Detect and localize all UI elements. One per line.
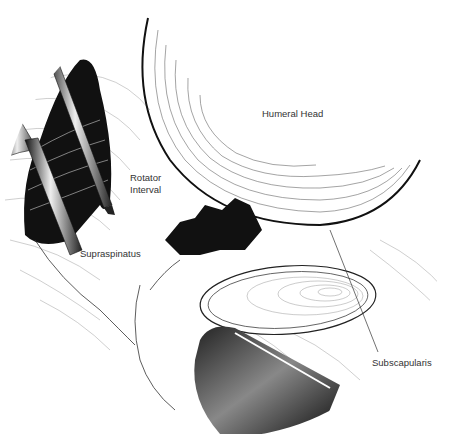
label-subscapularis: Subscapularis [372, 357, 432, 369]
label-rotator-line1: Rotator [130, 172, 161, 184]
label-rotator-line2: Interval [130, 184, 161, 196]
label-humeral-head: Humeral Head [262, 108, 323, 120]
cannula-instrument [194, 327, 340, 434]
label-rotator-interval: Rotator Interval [130, 172, 161, 196]
label-supraspinatus: Supraspinatus [80, 248, 141, 260]
supraspinatus-tissue [35, 240, 180, 410]
rotator-interval-defect [165, 198, 262, 255]
humeral-head [142, 18, 420, 225]
